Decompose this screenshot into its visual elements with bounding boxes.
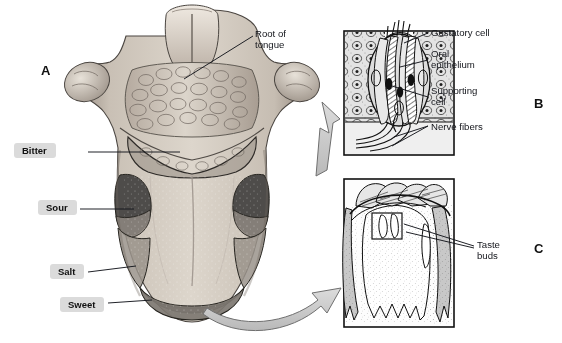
panel-label-c: C: [534, 241, 544, 256]
taste-label-bitter: Bitter: [14, 143, 56, 158]
leader-taste-buds-1: [404, 224, 474, 246]
leader-taste-buds-2: [406, 232, 474, 248]
leader-sweet: [108, 300, 152, 303]
label-root-of-tongue: Root of tongue: [255, 28, 286, 51]
label-gustatory-cell: Gustatory cell: [431, 27, 490, 38]
leader-salt: [88, 266, 136, 272]
panel-label-a: A: [41, 63, 51, 78]
leader-root-of-tongue: [184, 36, 253, 79]
label-supporting-cell: Supporting cell: [431, 85, 477, 108]
leader-supporting-cell: [392, 86, 428, 97]
taste-label-sweet: Sweet: [60, 297, 104, 312]
label-oral-epithelium: Oral epithelium: [431, 48, 475, 71]
label-nerve-fibers: Nerve fibers: [431, 121, 483, 132]
leader-oral-epithelium: [400, 60, 428, 67]
leader-lines-layer: [0, 0, 562, 343]
anatomical-figure-tongue: A B C Bitter Sour Salt Sweet Root of ton…: [0, 0, 562, 343]
taste-label-sour: Sour: [38, 200, 77, 215]
panel-label-b: B: [534, 96, 544, 111]
leader-gustatory-cell: [404, 33, 428, 43]
label-taste-buds: Taste buds: [477, 239, 500, 262]
taste-label-salt: Salt: [50, 264, 84, 279]
